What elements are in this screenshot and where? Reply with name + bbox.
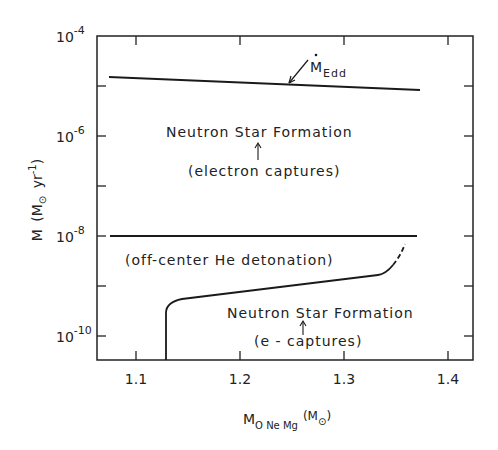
e-capture-curve-dashed — [393, 244, 405, 265]
y-tick-label-1e-6: 10-6 — [56, 124, 85, 145]
y-tick-label-1e-10: 10-10 — [56, 324, 92, 345]
x-ticks-bottom — [136, 351, 448, 360]
y-axis-label: M (M⊙ yr-1) — [27, 159, 49, 241]
ns-formation-lower-label: Neutron Star Formation — [227, 305, 414, 321]
he-detonation-label: (off-center He detonation) — [125, 252, 334, 268]
chart: 1.1 1.2 1.3 1.4 10-4 10-6 10-8 10-10 M (… — [0, 0, 498, 450]
y-ticks-left — [97, 86, 106, 336]
ns-formation-upper-sublabel: (electron captures) — [188, 163, 340, 179]
x-tick-label: 1.3 — [333, 371, 355, 387]
x-ticks-top — [136, 36, 448, 45]
edd-line — [109, 77, 420, 90]
edd-annotation: MEdd — [289, 54, 347, 83]
x-tick-labels: 1.1 1.2 1.3 1.4 — [125, 371, 459, 387]
y-ticks-right — [464, 86, 473, 336]
ns-formation-lower-sublabel: (e - captures) — [254, 333, 362, 349]
edd-label: MEdd — [310, 59, 347, 80]
x-tick-label: 1.4 — [437, 371, 459, 387]
y-tick-labels: 10-4 10-6 10-8 10-10 — [56, 24, 92, 345]
y-tick-label-1e-4: 10-4 — [56, 24, 85, 45]
x-axis-label: MO Ne Mg(M⊙) — [243, 409, 331, 431]
x-tick-label: 1.1 — [125, 371, 147, 387]
x-tick-label: 1.2 — [229, 371, 251, 387]
ns-formation-upper-label: Neutron Star Formation — [166, 124, 353, 140]
y-tick-label-1e-8: 10-8 — [56, 224, 85, 245]
up-arrow-icon — [255, 143, 261, 160]
